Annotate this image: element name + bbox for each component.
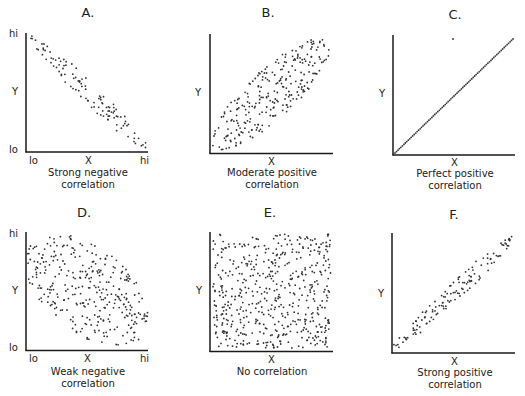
panel-e: E. Y X No correlation (175, 198, 350, 396)
caption-line-1: No correlation (202, 366, 342, 378)
caption: Perfect positive correlation (385, 168, 525, 192)
caption: Strong negative correlation (18, 167, 158, 191)
caption: Strong positive correlation (385, 367, 525, 391)
data-points (30, 35, 146, 148)
x-axis-label: X (85, 155, 92, 166)
panel-a: A. hi Y lo lo X hi Strong negative corre… (0, 0, 175, 198)
y-axis-label: Y (12, 86, 18, 97)
caption-line-2: correlation (385, 180, 525, 192)
x-lo-label: lo (29, 353, 38, 364)
x-hi-label: hi (140, 353, 149, 364)
panel-title: E. (264, 205, 276, 220)
x-axis-label: X (268, 156, 275, 167)
y-axis-label: Y (196, 285, 202, 296)
caption-line-1: Weak negative (18, 366, 158, 378)
x-axis-label: X (268, 354, 275, 365)
data-points (27, 235, 149, 346)
caption-line-1: Moderate positive (202, 167, 342, 179)
caption: Weak negative correlation (18, 366, 158, 390)
x-axis-label: X (451, 356, 458, 367)
panel-title: F. (449, 207, 459, 222)
caption: Moderate positive correlation (202, 167, 342, 191)
panel-c: C. Y X Perfect positive correlation (350, 0, 525, 198)
caption-line-2: correlation (18, 378, 158, 390)
y-axis-label: Y (378, 288, 384, 299)
panel-f: F. Y X Strong positive correlation (350, 198, 525, 396)
data-points (394, 38, 514, 154)
data-points (393, 236, 513, 349)
panel-title: B. (261, 5, 274, 20)
panel-title: C. (448, 7, 461, 22)
panel-d: D. hi Y lo lo X hi Weak negative correla… (0, 198, 175, 396)
caption-line-2: correlation (202, 179, 342, 191)
y-lo-label: lo (9, 144, 18, 155)
caption-line-1: Perfect positive (385, 168, 525, 180)
panel-title: D. (77, 205, 91, 220)
data-points (212, 39, 330, 151)
y-axis-label: Y (12, 285, 18, 296)
x-axis-label: X (84, 353, 91, 364)
y-lo-label: lo (9, 342, 18, 353)
x-lo-label: lo (29, 155, 38, 166)
y-axis-label: Y (379, 88, 385, 99)
y-hi-label: hi (9, 228, 18, 239)
caption-line-2: correlation (385, 379, 525, 391)
x-axis-label: X (451, 157, 458, 168)
x-hi-label: hi (140, 155, 149, 166)
caption: No correlation (202, 366, 342, 378)
panel-title: A. (82, 5, 95, 20)
y-hi-label: hi (9, 28, 18, 39)
caption-line-2: correlation (18, 179, 158, 191)
data-points (212, 233, 331, 348)
y-axis-label: Y (195, 87, 201, 98)
caption-line-1: Strong positive (385, 367, 525, 379)
caption-line-1: Strong negative (18, 167, 158, 179)
panel-b: B. Y X Moderate positive correlation (175, 0, 350, 198)
